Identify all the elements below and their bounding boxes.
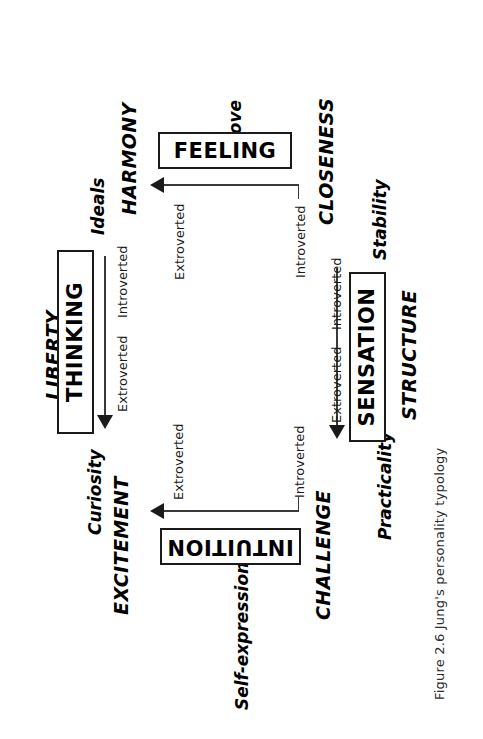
- intuition-introverted-label: Introverted: [292, 425, 307, 498]
- feeling-axis-arrowhead: [150, 177, 164, 193]
- label-structure: STRUCTURE: [398, 290, 420, 420]
- feeling-axis-tick: [298, 185, 299, 199]
- label-closeness: CLOSENESS: [315, 98, 337, 225]
- label-excitement: EXCITEMENT: [110, 476, 132, 615]
- thinking-axis-arrowhead: [97, 415, 113, 429]
- feeling-axis-line: [163, 184, 299, 186]
- thinking-extroverted-label: Extroverted: [115, 336, 130, 412]
- function-box-sensation: SENSATION: [349, 272, 386, 442]
- label-challenge: CHALLENGE: [312, 490, 334, 620]
- label-practicality: Practicality: [375, 432, 395, 540]
- intuition-axis-arrowhead: [150, 503, 164, 519]
- function-box-feeling: FEELING: [158, 132, 292, 169]
- function-box-thinking-label: THINKING: [64, 282, 88, 402]
- figure-caption: Figure 2.6 Jung's personality typology: [432, 448, 447, 700]
- function-box-feeling-label: FEELING: [174, 139, 277, 163]
- intuition-axis-line: [163, 510, 299, 512]
- intuition-axis-tick: [298, 497, 299, 511]
- label-self-expression: Self-expression: [232, 562, 252, 710]
- function-box-intuition-label: INTUITION: [167, 535, 294, 559]
- thinking-axis-line: [104, 256, 106, 418]
- feeling-extroverted-label: Extroverted: [172, 204, 187, 280]
- label-harmony: HARMONY: [118, 102, 140, 215]
- thinking-introverted-label: Introverted: [115, 245, 130, 318]
- label-stability: Stability: [370, 179, 390, 260]
- figure-page: HARMONY Love CLOSENESS FEELING Extrovert…: [0, 0, 483, 739]
- function-box-sensation-label: SENSATION: [356, 288, 380, 427]
- feeling-introverted-label: Introverted: [293, 205, 308, 278]
- label-ideals: Ideals: [88, 178, 108, 235]
- sensation-axis-arrowhead: [329, 425, 345, 439]
- function-box-intuition: INTUITION: [160, 528, 301, 565]
- sensation-extroverted-label: Extroverted: [329, 347, 344, 423]
- function-box-thinking: THINKING: [57, 250, 94, 434]
- label-curiosity: Curiosity: [85, 449, 105, 535]
- intuition-extroverted-label: Extroverted: [171, 424, 186, 500]
- sensation-introverted-label: Introverted: [329, 257, 344, 330]
